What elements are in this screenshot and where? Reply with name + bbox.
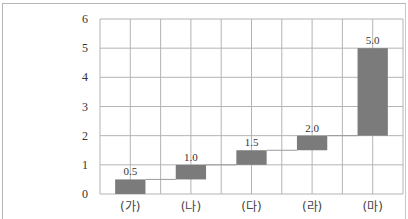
y-tick-label: 0	[82, 187, 88, 201]
x-category-label: (라)	[302, 200, 322, 214]
bar	[115, 179, 145, 194]
y-tick-label: 4	[82, 70, 88, 84]
value-label: 2.0	[305, 122, 319, 134]
bar	[176, 165, 206, 180]
y-tick-label: 1	[82, 158, 88, 172]
x-category-label: (나)	[181, 200, 201, 214]
waterfall-chart: 01234560.5(가)1.0(나)1.5(다)2.0(라)5.0(마)	[0, 0, 408, 219]
y-tick-label: 3	[82, 100, 88, 114]
value-label: 0.5	[123, 165, 137, 177]
value-label: 1.0	[184, 151, 198, 163]
x-category-label: (가)	[120, 200, 140, 214]
y-tick-label: 6	[82, 12, 88, 26]
bar	[297, 136, 327, 151]
bar	[236, 150, 266, 165]
bar	[358, 48, 388, 136]
x-category-label: (다)	[241, 200, 261, 214]
value-label: 5.0	[366, 34, 380, 46]
value-label: 1.5	[245, 136, 259, 148]
x-category-label: (마)	[363, 200, 383, 214]
y-tick-label: 5	[82, 41, 88, 55]
y-tick-label: 2	[82, 129, 88, 143]
